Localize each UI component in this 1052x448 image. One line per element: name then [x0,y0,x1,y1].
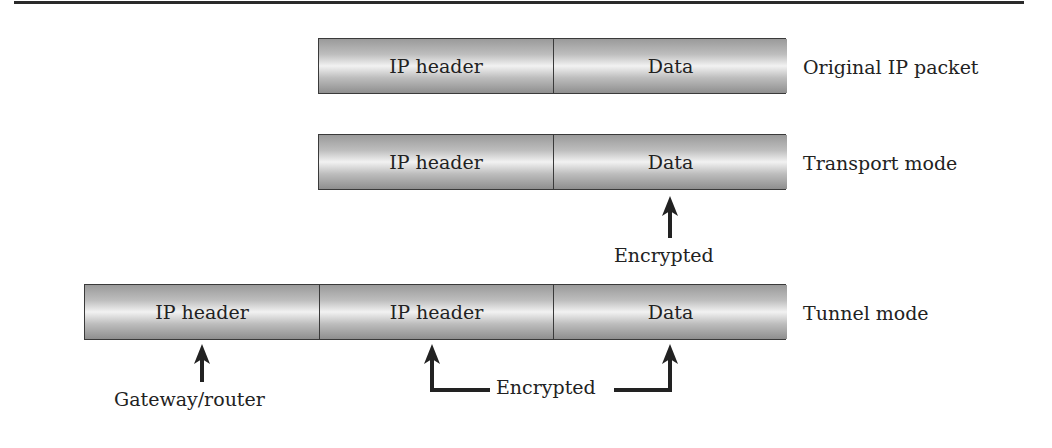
cell-label: Data [648,301,694,323]
tunnel-encrypted-label: Encrypted [496,376,596,398]
top-rule [14,1,1024,4]
transport-encrypted-label: Encrypted [614,244,714,266]
transport-mode-packet: IP header Data [318,134,786,190]
tunnel-mode-packet: IP header IP header Data [84,284,786,340]
cell-label: Data [648,55,694,77]
new-ip-header-cell: IP header [85,285,319,339]
cell-label: IP header [389,55,483,77]
ip-header-cell: IP header [319,135,553,189]
data-cell: Data [553,39,787,93]
ip-header-cell: IP header [319,285,553,339]
original-packet: IP header Data [318,38,786,94]
row-label-transport: Transport mode [803,152,957,174]
cell-label: IP header [390,301,484,323]
row-label-original: Original IP packet [803,56,979,78]
cell-label: Data [648,151,694,173]
data-cell: Data [553,285,787,339]
up-arrow-icon [660,196,680,240]
cell-label: IP header [389,151,483,173]
data-cell: Data [553,135,787,189]
up-arrow-icon [192,344,212,384]
gateway-router-label: Gateway/router [114,388,265,410]
cell-label: IP header [155,301,249,323]
ip-header-cell: IP header [319,39,553,93]
row-label-tunnel: Tunnel mode [803,302,929,324]
